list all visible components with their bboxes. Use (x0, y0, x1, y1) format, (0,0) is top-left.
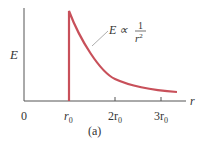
x-axis-label: r (190, 94, 195, 108)
annotation-denominator: r2 (135, 32, 143, 44)
chart: E r 0 r0 2r0 3r0 E ∝ 1 r2 (a) (0, 0, 203, 143)
annotation-numerator: 1 (138, 20, 143, 31)
tick-label-r0: r0 (64, 109, 73, 125)
tick-label-3r0: 3r0 (154, 109, 168, 125)
y-axis-label: E (9, 47, 18, 62)
annotation-leader (92, 31, 108, 46)
caption: (a) (88, 124, 101, 138)
tick-label-2r0: 2r0 (108, 109, 122, 125)
annotation-text: E ∝ (108, 23, 128, 37)
tick-label-0: 0 (21, 109, 27, 123)
